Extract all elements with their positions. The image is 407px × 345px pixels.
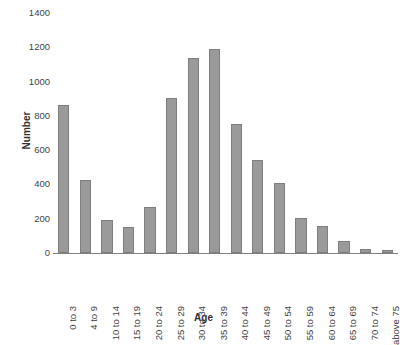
bar-slot — [188, 13, 199, 253]
bar[interactable] — [58, 105, 69, 253]
bar[interactable] — [231, 124, 242, 253]
bar-slot — [338, 13, 349, 253]
bar[interactable] — [252, 160, 263, 253]
y-axis-tick-label: 1400 — [29, 8, 50, 18]
bar[interactable] — [166, 98, 177, 253]
bar-slot — [295, 13, 306, 253]
bar-slot — [317, 13, 328, 253]
bar-slot — [80, 13, 91, 253]
y-axis-tick-label: 800 — [34, 111, 50, 121]
bar[interactable] — [317, 226, 328, 253]
plot-area — [53, 13, 398, 253]
y-axis-tick-label: 200 — [34, 214, 50, 224]
bar[interactable] — [274, 183, 285, 253]
y-axis-tick-label: 1000 — [29, 77, 50, 87]
bar[interactable] — [188, 58, 199, 253]
y-axis-tick-labels: 0200400600800100012001400 — [24, 0, 50, 330]
bar[interactable] — [123, 227, 134, 253]
bar[interactable] — [209, 49, 220, 253]
bar[interactable] — [144, 207, 155, 253]
bar-slot — [209, 13, 220, 253]
bar-slot — [144, 13, 155, 253]
y-axis-tick-label: 0 — [45, 248, 50, 258]
bar-slot — [274, 13, 285, 253]
bar[interactable] — [338, 241, 349, 253]
bar-slot — [58, 13, 69, 253]
bar-slot — [101, 13, 112, 253]
bar[interactable] — [101, 220, 112, 253]
y-axis-tick-label: 1200 — [29, 43, 50, 53]
bar-slot — [123, 13, 134, 253]
bar-slot — [382, 13, 393, 253]
bar-slot — [360, 13, 371, 253]
bar[interactable] — [80, 180, 91, 253]
bar[interactable] — [295, 218, 306, 253]
bar-slot — [166, 13, 177, 253]
x-axis-tick-labels: 0 to 34 to 910 to 1415 to 1920 to 2425 t… — [53, 256, 398, 308]
x-axis-line — [53, 253, 398, 254]
x-axis-title: Age — [0, 312, 407, 323]
y-axis-tick-label: 400 — [34, 180, 50, 190]
y-axis-tick-label: 600 — [34, 145, 50, 155]
bar[interactable] — [360, 249, 371, 253]
bar-slot — [231, 13, 242, 253]
bar[interactable] — [382, 250, 393, 253]
bar-slot — [252, 13, 263, 253]
